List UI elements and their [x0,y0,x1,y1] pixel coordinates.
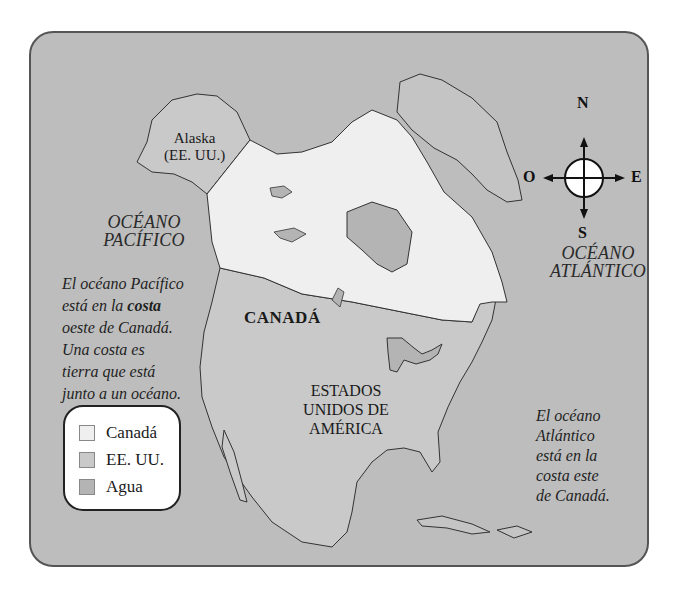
pacific-ocean-label: OCÉANO PACÍFICO [89,213,199,249]
compass-west: O [523,168,535,186]
atlantic-note-line4: costa este [536,466,646,486]
cuba-shape [417,516,490,534]
pacific-note-line6: junto a un océano. [62,383,222,405]
atlantic-note-line2: Atlántico [536,426,646,446]
pacific-note-line2-text: está en la [62,297,127,314]
compass-north: N [577,94,589,112]
atlantic-label-line2: ATLÁNTICO [548,262,648,280]
pacific-note: El océano Pacífico está en la costa oest… [62,273,222,405]
compass-east: E [631,168,642,186]
legend-item-usa: EE. UU. [79,446,179,473]
water-swatch [79,479,95,495]
pacific-note-line3: oeste de Canadá. [62,317,222,339]
atlantic-note-line5: de Canadá. [536,486,646,506]
legend-item-water: Agua [79,473,179,500]
compass-south: S [578,224,587,242]
canada-swatch [79,425,95,441]
legend-label-canada: Canadá [106,423,157,443]
legend-label-water: Agua [106,477,143,497]
compass-rose-icon [539,133,629,223]
legend-label-usa: EE. UU. [106,450,164,470]
usa-swatch [79,452,95,468]
alaska-label-line1: Alaska [164,130,225,147]
pacific-note-line4: Una costa es [62,339,222,361]
pacific-note-line5: tierra que está [62,361,222,383]
atlantic-ocean-label: OCÉANO ATLÁNTICO [548,244,648,280]
atlantic-label-line1: OCÉANO [548,244,648,262]
usa-label: ESTADOS UNIDOS DE AMÉRICA [286,381,406,438]
pacific-note-line2: está en la costa [62,295,222,317]
atlantic-note-line3: está en la [536,446,646,466]
alaska-label: Alaska (EE. UU.) [164,130,225,164]
usa-label-line1: ESTADOS [286,381,406,400]
hispaniola-shape [497,526,532,538]
usa-label-line3: AMÉRICA [286,419,406,438]
costa-term: costa [127,297,161,314]
pacific-label-line1: OCÉANO [89,213,199,231]
usa-label-line2: UNIDOS DE [286,400,406,419]
legend-item-canada: Canadá [79,419,179,446]
canada-label: CANADÁ [244,308,321,328]
alaska-label-line2: (EE. UU.) [164,147,225,164]
map-legend: Canadá EE. UU. Agua [63,405,181,511]
pacific-note-line1: El océano Pacífico [62,273,222,295]
atlantic-note: El océano Atlántico está en la costa est… [536,406,646,506]
pacific-label-line2: PACÍFICO [89,231,199,249]
atlantic-note-line1: El océano [536,406,646,426]
